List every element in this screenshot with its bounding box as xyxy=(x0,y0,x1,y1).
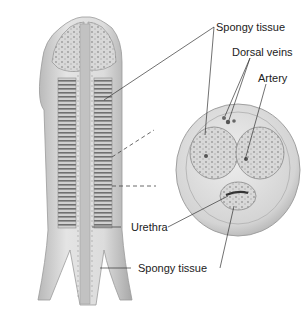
label-spongy-tissue-bottom: Spongy tissue xyxy=(138,262,207,274)
label-spongy-tissue-top: Spongy tissue xyxy=(216,21,285,33)
longitudinal-section xyxy=(38,17,132,305)
label-dorsal-veins: Dorsal veins xyxy=(232,46,293,58)
anatomy-diagram: Spongy tissue Dorsal veins Artery Urethr… xyxy=(0,0,303,321)
label-urethra: Urethra xyxy=(131,221,168,233)
cross-section xyxy=(176,104,300,236)
label-artery: Artery xyxy=(258,72,287,84)
